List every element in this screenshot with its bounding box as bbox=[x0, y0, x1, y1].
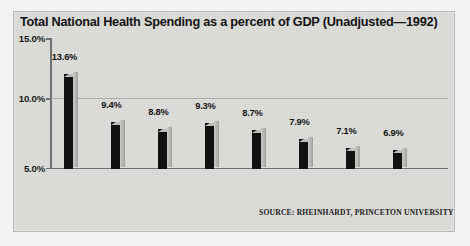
bar-front-usa bbox=[64, 74, 73, 169]
y-tick-15 bbox=[46, 38, 51, 40]
bar-value-sweden: 7.9% bbox=[289, 117, 309, 127]
x-axis-line bbox=[50, 168, 448, 170]
plot-area: 15.0% 10.0% 5.0% 13.6% USA 9.4% bbox=[50, 38, 448, 169]
bar-value-france: 9.4% bbox=[101, 100, 121, 110]
y-tick-10 bbox=[46, 98, 51, 100]
page-background: Total National Health Spending as a perc… bbox=[0, 0, 470, 246]
bar-side-switzerland bbox=[214, 121, 219, 167]
chart-title: Total National Health Spending as a perc… bbox=[20, 14, 429, 30]
bar-value-switzerland: 9.3% bbox=[195, 101, 215, 111]
bar-front-sweden bbox=[299, 139, 308, 169]
bar-value-australia: 8.8% bbox=[148, 107, 168, 117]
bar-value-germany: 8.7% bbox=[242, 108, 262, 118]
y-axis-label-15: 15.0% bbox=[19, 33, 45, 44]
bar-front-australia bbox=[158, 129, 167, 169]
bar-front-uk bbox=[346, 148, 355, 169]
bar-side-sweden bbox=[308, 137, 313, 167]
bar-side-usa bbox=[73, 72, 78, 167]
bar-side-germany bbox=[261, 128, 266, 167]
y-gridline-10 bbox=[50, 98, 448, 99]
y-axis-label-5: 5.0% bbox=[24, 162, 45, 173]
bar-side-australia bbox=[167, 127, 172, 167]
y-axis-label-10: 10.0% bbox=[19, 93, 45, 104]
bar-value-usa: 13.6% bbox=[52, 52, 77, 62]
bar-front-france bbox=[111, 122, 120, 169]
chart-panel: Total National Health Spending as a perc… bbox=[13, 11, 455, 232]
y-tick-5 bbox=[46, 168, 51, 170]
bar-side-uk bbox=[355, 146, 360, 167]
source-note: SOURCE: RHEINHARDT, PRINCETON UNIVERSITY bbox=[259, 208, 454, 217]
bar-value-japan: 6.9% bbox=[383, 128, 403, 138]
bar-side-japan bbox=[402, 148, 407, 167]
bar-front-germany bbox=[252, 130, 261, 169]
bar-front-japan bbox=[393, 150, 402, 169]
bar-value-uk: 7.1% bbox=[336, 126, 356, 136]
bar-front-switzerland bbox=[205, 123, 214, 169]
bar-side-france bbox=[120, 120, 125, 167]
